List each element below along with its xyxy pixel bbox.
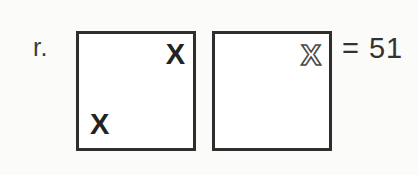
problem-label: r. (33, 34, 48, 60)
x-mark-hollow-top-right: X (301, 40, 321, 70)
worksheet-problem: r. X X X = 51 (0, 0, 418, 175)
grid-square-two[interactable]: X (212, 31, 332, 151)
grid-square-one[interactable]: X X (76, 31, 196, 151)
x-mark-solid-bottom-left: X (90, 110, 109, 139)
x-mark-solid-top-right: X (166, 40, 185, 69)
result-expression: = 51 (342, 33, 403, 63)
